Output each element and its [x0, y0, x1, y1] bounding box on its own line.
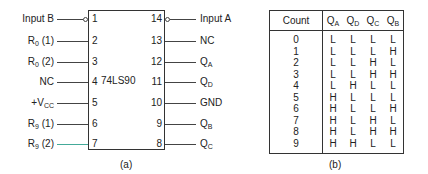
- pin-number: 1: [92, 13, 98, 25]
- pin-label-suffix: (1): [39, 118, 54, 129]
- pin-label-left-1: Input B: [22, 13, 54, 25]
- table-row: 2LLHL: [270, 57, 404, 69]
- pin-label-text: NC: [200, 35, 214, 46]
- column-header-qa: QA: [323, 11, 344, 31]
- pin-line-left-3: [57, 62, 88, 63]
- state-cell: H: [323, 115, 344, 127]
- pin-label-subscript: C: [208, 143, 213, 150]
- state-cell: L: [343, 126, 363, 138]
- table-row: 6HLLH: [270, 103, 404, 115]
- count-cell: 8: [270, 126, 323, 138]
- state-cell: H: [323, 92, 344, 104]
- pin-number: 3: [92, 56, 98, 68]
- state-cell: L: [363, 80, 383, 92]
- inversion-bubble-icon: [83, 17, 88, 22]
- pin-number: 11: [152, 76, 162, 88]
- pin-label-subscript: D: [208, 81, 213, 88]
- pin-line-right-8: [165, 144, 196, 145]
- pin-line-left-5: [57, 103, 88, 104]
- pin-line-right-13: [165, 41, 196, 42]
- count-cell: 0: [270, 31, 323, 46]
- state-cell: L: [343, 115, 363, 127]
- pin-label-text: Q: [200, 56, 208, 67]
- pin-number: 7: [92, 138, 98, 150]
- pin-number: 4: [92, 76, 98, 88]
- pin-number: 6: [92, 118, 98, 130]
- pin-label-text: Q: [200, 118, 208, 129]
- header-subscript: D: [354, 20, 359, 27]
- header-text: Q: [327, 15, 335, 26]
- pin-line-right-11: [165, 82, 196, 83]
- pin-number: 5: [92, 97, 98, 109]
- table-row: 5HLLL: [270, 92, 404, 104]
- pin-label-text: R: [28, 35, 35, 46]
- pin-line-left-4: [57, 82, 88, 83]
- pin-line-left-2: [57, 41, 88, 42]
- state-cell: L: [323, 31, 344, 46]
- caption-a: (a): [120, 159, 132, 170]
- pin-label-right-9: QB: [200, 118, 212, 133]
- state-cell: L: [363, 138, 383, 154]
- count-cell: 5: [270, 92, 323, 104]
- pin-line-right-10: [165, 103, 196, 104]
- pin-number: 14: [151, 13, 162, 25]
- truth-table-body: 0LLLL1LLLH2LLHL3LLHH4LHLL5HLLL6HLLH7HLHL…: [270, 31, 404, 154]
- pin-label-suffix: (2): [39, 138, 54, 149]
- state-cell: L: [363, 46, 383, 58]
- state-cell: H: [383, 126, 404, 138]
- pin-label-left-4: NC: [40, 76, 54, 88]
- state-cell: L: [363, 92, 383, 104]
- column-header-qd: QD: [343, 11, 363, 31]
- pin-label-text: +V: [31, 97, 44, 108]
- state-cell: L: [343, 46, 363, 58]
- state-cell: H: [363, 115, 383, 127]
- pin-line-left-1: [57, 19, 83, 20]
- truth-table-header: CountQAQDQCQB: [270, 11, 404, 31]
- table-row: 1LLLH: [270, 46, 404, 58]
- header-subscript: A: [335, 20, 340, 27]
- state-cell: L: [383, 31, 404, 46]
- pin-label-left-7: R9 (2): [28, 138, 54, 153]
- count-cell: 6: [270, 103, 323, 115]
- truth-table: CountQAQDQCQB 0LLLL1LLLH2LLHL3LLHH4LHLL5…: [269, 10, 404, 154]
- pin-number: 13: [151, 35, 162, 47]
- state-cell: H: [363, 57, 383, 69]
- pin-label-text: NC: [40, 76, 54, 87]
- pin-label-text: R: [28, 138, 35, 149]
- state-cell: L: [363, 103, 383, 115]
- pin-label-text: Q: [200, 138, 208, 149]
- state-cell: L: [323, 69, 344, 81]
- count-cell: 3: [270, 69, 323, 81]
- pin-label-right-8: QC: [200, 138, 213, 153]
- table-row: 4LHLL: [270, 80, 404, 92]
- count-cell: 4: [270, 80, 323, 92]
- pin-line-right-14: [170, 19, 196, 20]
- state-cell: H: [343, 80, 363, 92]
- state-cell: H: [383, 69, 404, 81]
- state-cell: H: [363, 126, 383, 138]
- pin-label-left-5: +VCC: [31, 97, 54, 112]
- count-cell: 2: [270, 57, 323, 69]
- pin-label-text: GND: [200, 97, 222, 108]
- state-cell: L: [323, 80, 344, 92]
- state-cell: L: [343, 103, 363, 115]
- pin-line-right-12: [165, 62, 196, 63]
- table-row: 8HLHH: [270, 126, 404, 138]
- header-subscript: B: [395, 20, 400, 27]
- state-cell: H: [323, 138, 344, 154]
- pin-label-right-13: NC: [200, 35, 214, 47]
- pin-label-left-3: R0 (2): [28, 56, 54, 71]
- state-cell: L: [383, 115, 404, 127]
- state-cell: H: [323, 126, 344, 138]
- pin-label-text: Input B: [22, 13, 54, 24]
- pin-label-suffix: (1): [39, 35, 54, 46]
- state-cell: L: [383, 138, 404, 154]
- pin-label-left-6: R9 (1): [28, 118, 54, 133]
- pin-number: 8: [156, 138, 162, 150]
- count-cell: 1: [270, 46, 323, 58]
- pin-number: 12: [151, 56, 162, 68]
- pin-line-left-6: [57, 124, 88, 125]
- header-subscript: C: [374, 20, 379, 27]
- pin-number: 10: [151, 97, 162, 109]
- pin-label-subscript: A: [208, 61, 213, 68]
